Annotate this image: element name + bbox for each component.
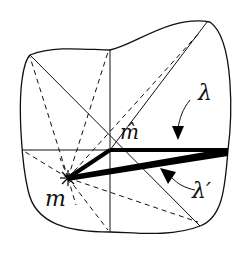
lambda-arrowhead-icon — [172, 126, 184, 140]
lambda-arrow — [178, 100, 190, 128]
label-m: m — [45, 188, 66, 210]
label-lambda-prime: λ′ — [192, 180, 211, 202]
lambda-prime-arrowhead-icon — [160, 168, 176, 184]
point-m-star — [60, 170, 76, 186]
label-m-hat: m̂ — [120, 122, 139, 142]
label-lambda: λ — [198, 82, 212, 104]
